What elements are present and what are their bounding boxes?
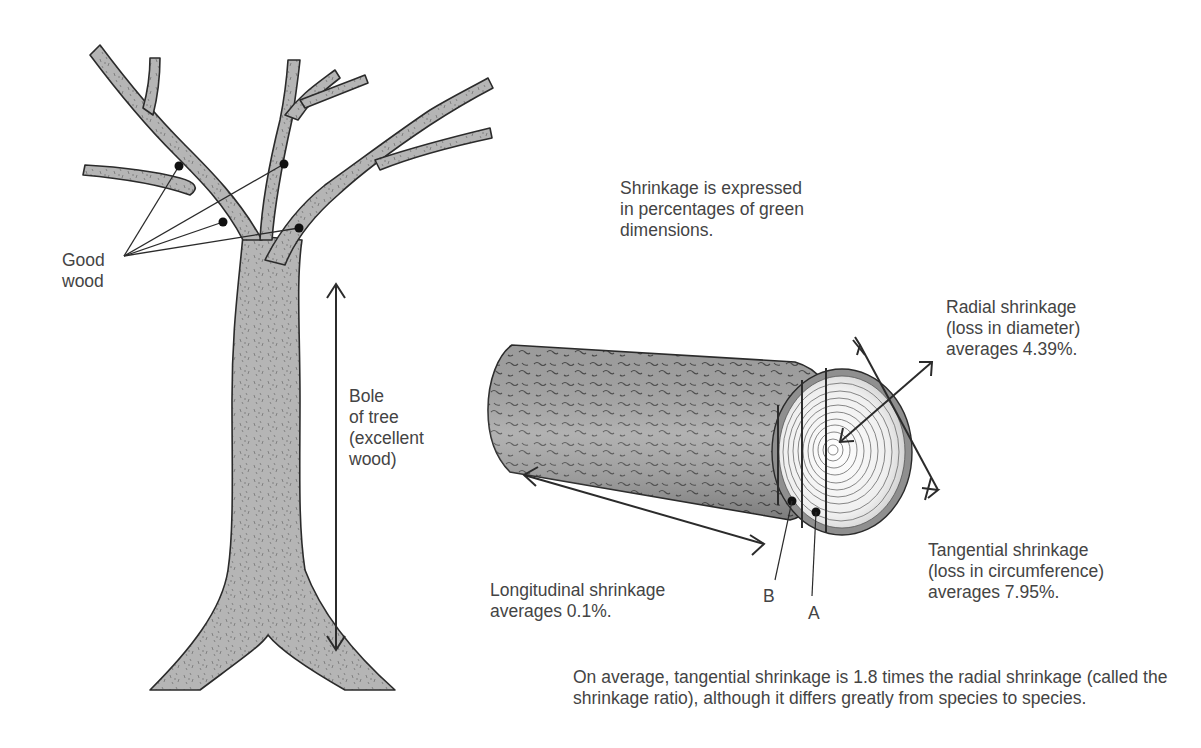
bole-label-line: of tree bbox=[349, 407, 424, 428]
intro-line: in percentages of green bbox=[620, 199, 804, 220]
bole-label-line: Bole bbox=[349, 386, 424, 407]
footnote-line: On average, tangential shrinkage is 1.8 … bbox=[573, 667, 1167, 688]
radial-label-line: averages 4.39%. bbox=[946, 339, 1080, 360]
branch-center bbox=[260, 60, 300, 240]
intro-line: Shrinkage is expressed bbox=[620, 178, 804, 199]
radial-label-line: Radial shrinkage bbox=[946, 297, 1080, 318]
marker-dot bbox=[295, 224, 304, 233]
radial-shrinkage-label: Radial shrinkage (loss in diameter) aver… bbox=[946, 297, 1080, 360]
marker-dot bbox=[280, 160, 289, 169]
tree-drawing bbox=[83, 45, 493, 690]
wood-shrinkage-illustration bbox=[0, 0, 1201, 748]
longitudinal-label-line: averages 0.1%. bbox=[490, 601, 665, 622]
bole-label-line: (excellent bbox=[349, 428, 424, 449]
tangential-label-line: averages 7.95%. bbox=[928, 582, 1104, 603]
bole-label: Bole of tree (excellent wood) bbox=[349, 386, 424, 470]
tangential-label-line: (loss in circumference) bbox=[928, 561, 1104, 582]
log-drawing bbox=[488, 345, 912, 596]
good-wood-label-line: wood bbox=[62, 271, 105, 292]
bole-label-line: wood) bbox=[349, 449, 424, 470]
marker-b-label: B bbox=[763, 586, 775, 607]
good-wood-label: Good wood bbox=[62, 250, 105, 292]
shrinkage-ratio-footnote: On average, tangential shrinkage is 1.8 … bbox=[573, 667, 1167, 709]
twig-left-upper bbox=[143, 58, 160, 115]
shrinkage-intro-text: Shrinkage is expressed in percentages of… bbox=[620, 178, 804, 241]
marker-dot bbox=[219, 218, 228, 227]
tangential-shrinkage-label: Tangential shrinkage (loss in circumfere… bbox=[928, 540, 1104, 603]
branch-left bbox=[90, 45, 262, 240]
good-wood-label-line: Good bbox=[62, 250, 105, 271]
marker-dot bbox=[175, 162, 184, 171]
marker-a-label: A bbox=[808, 603, 820, 624]
longitudinal-label-line: Longitudinal shrinkage bbox=[490, 580, 665, 601]
longitudinal-shrinkage-label: Longitudinal shrinkage averages 0.1%. bbox=[490, 580, 665, 622]
radial-label-line: (loss in diameter) bbox=[946, 318, 1080, 339]
footnote-line: shrinkage ratio), although it differs gr… bbox=[573, 688, 1167, 709]
tangential-label-line: Tangential shrinkage bbox=[928, 540, 1104, 561]
intro-line: dimensions. bbox=[620, 220, 804, 241]
bole-arrow-icon bbox=[327, 284, 345, 650]
